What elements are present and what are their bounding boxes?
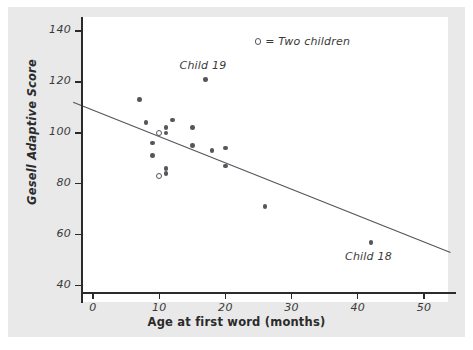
y-tick-mark (75, 234, 81, 235)
y-tick-mark (75, 183, 81, 184)
plot-area: Child 19Child 18 (81, 17, 448, 302)
y-tick-mark (75, 30, 81, 31)
y-tick-mark (75, 285, 81, 286)
x-tick-label: 0 (73, 301, 113, 314)
data-point (137, 97, 142, 102)
x-axis-title: Age at first word (months) (8, 315, 465, 329)
y-tick-label: 40 (31, 278, 71, 291)
legend-label: = Two children (265, 35, 350, 48)
point-annotation: Child 19 (180, 59, 227, 72)
data-point (203, 77, 208, 82)
data-point (164, 125, 169, 130)
x-tick-label: 40 (338, 301, 378, 314)
x-tick-label: 10 (139, 301, 179, 314)
data-point (170, 118, 175, 123)
x-axis-line (81, 292, 456, 294)
data-point (223, 146, 228, 151)
x-tick-mark (423, 293, 424, 299)
y-tick-label: 140 (31, 23, 71, 36)
data-point (164, 171, 169, 176)
legend: = Two children (255, 35, 350, 48)
data-point (164, 166, 169, 171)
data-point (223, 164, 228, 169)
data-point (150, 153, 155, 158)
y-tick-label: 60 (31, 227, 71, 240)
x-tick-mark (92, 293, 93, 299)
y-axis-line (81, 17, 83, 303)
y-axis-title: Gesell Adaptive Score (25, 42, 39, 222)
point-annotation: Child 18 (345, 250, 392, 263)
data-point (190, 143, 195, 148)
regression-line (81, 17, 448, 302)
x-tick-mark (225, 293, 226, 299)
x-tick-mark (159, 293, 160, 299)
y-tick-mark (75, 81, 81, 82)
data-point (144, 120, 149, 125)
data-point (164, 131, 169, 136)
x-tick-label: 50 (404, 301, 444, 314)
chart-figure: Child 19Child 18 406080100120140 0102030… (8, 7, 465, 337)
x-tick-label: 20 (205, 301, 245, 314)
data-point (150, 141, 155, 146)
open-circle-icon (255, 38, 261, 44)
x-tick-mark (357, 293, 358, 299)
x-tick-mark (291, 293, 292, 299)
x-tick-label: 30 (272, 301, 312, 314)
data-point (369, 240, 374, 245)
data-point (190, 125, 195, 130)
data-point (156, 130, 162, 136)
y-tick-mark (75, 132, 81, 133)
